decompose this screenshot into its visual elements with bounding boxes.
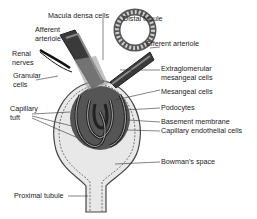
label-renal: Renal <box>12 50 31 58</box>
label-proximal-tubule: Proximal tubule <box>14 192 64 200</box>
label-cells: cells <box>13 81 27 89</box>
label-afferent: Afferent <box>35 26 60 34</box>
label-tuft: tuft <box>10 114 20 122</box>
label-arteriole: arteriole <box>35 35 61 43</box>
label-distal-tubule: Distal tubule <box>123 15 163 23</box>
label-extraglomerular-2: mesangeal cells <box>161 74 213 82</box>
label-granular: Granular <box>13 72 41 80</box>
label-nerves: nerves <box>12 59 34 67</box>
label-bowman: Bowman's space <box>161 158 215 166</box>
label-capillary: Capillary <box>10 105 38 113</box>
label-extraglomerular: Extraglomerular <box>161 65 212 73</box>
label-efferent-arteriole: Efferent arteriole <box>146 40 199 48</box>
label-basement-membrane: Basement membrane <box>161 118 230 126</box>
label-podocytes: Podocytes <box>161 104 195 112</box>
renal-corpuscle-diagram: Macula densa cells Distal tubule Afferen… <box>0 0 257 219</box>
label-endothelial: Capillary endothelial cells <box>161 127 242 135</box>
label-mesangeal: Mesangeal cells <box>161 88 213 96</box>
label-macula-densa: Macula densa cells <box>48 12 109 20</box>
